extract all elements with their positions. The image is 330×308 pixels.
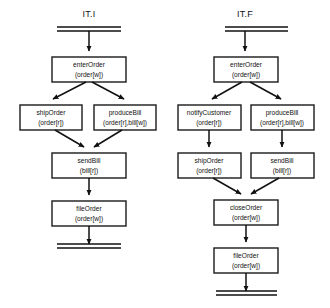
node-params: (order[w]) <box>232 262 260 270</box>
node-shipOrder-it-f: shipOrder (order[r]) <box>178 153 241 178</box>
diagram-it-i: IT.I enterOrder (order[w]) shipOrder <box>20 9 156 248</box>
end-node-it-f <box>216 291 277 295</box>
edge-enterOrder-to-shipOrder-it-i <box>53 82 86 99</box>
node-sendBill-it-f: sendBill (bill[r]) <box>251 153 314 178</box>
node-params: (order[r],bill[w]) <box>103 119 147 127</box>
edge-sendBill-to-closeOrder-it-f <box>251 178 279 194</box>
node-label: notifyCustomer <box>187 109 232 117</box>
node-label: closeOrder <box>230 204 263 211</box>
node-params: (order[w]) <box>232 214 260 222</box>
node-shipOrder-it-i: shipOrder (order[r]) <box>20 105 82 130</box>
node-params: (order[w]) <box>75 71 103 79</box>
end-node-it-i <box>57 244 121 248</box>
node-params: (bill[r]) <box>273 167 291 175</box>
node-produceBill-it-i: produceBill (order[r],bill[w]) <box>94 105 156 130</box>
node-label: shipOrder <box>37 109 67 117</box>
node-notifyCustomer-it-f: notifyCustomer (order[r]) <box>178 105 241 130</box>
node-params: (order[r],bill[w]) <box>260 119 304 127</box>
node-label: enterOrder <box>73 61 106 68</box>
edge-enterOrder-to-produceBill-it-i <box>92 82 124 99</box>
node-enterOrder-it-f: enterOrder (order[w]) <box>214 57 278 82</box>
edge-shipOrder-to-closeOrder-it-f <box>213 178 241 194</box>
node-label: fileOrder <box>76 205 102 212</box>
start-node-it-i <box>57 27 121 31</box>
node-params: (order[w]) <box>75 215 103 223</box>
node-label: sendBill <box>270 157 294 164</box>
node-params: (order[r]) <box>38 119 64 127</box>
node-closeOrder-it-f: closeOrder (order[w]) <box>214 200 278 225</box>
node-label: fileOrder <box>233 252 259 259</box>
node-label: shipOrder <box>195 157 225 165</box>
node-params: (order[r]) <box>196 119 222 127</box>
edge-shipOrder-to-sendBill-it-i <box>55 130 84 147</box>
diagram-title-it-i: IT.I <box>83 9 96 19</box>
node-label: sendBill <box>77 157 101 164</box>
edge-enterOrder-to-produceBill-it-f <box>250 82 281 99</box>
diagram-canvas: IT.I enterOrder (order[w]) shipOrder <box>0 0 330 308</box>
node-label: enterOrder <box>230 61 263 68</box>
activity-diagram-figure: IT.I enterOrder (order[w]) shipOrder <box>0 0 330 308</box>
edge-produceBill-to-sendBill-it-i <box>94 130 122 147</box>
node-sendBill-it-i: sendBill (bill[r]) <box>52 153 126 178</box>
node-params: (order[r]) <box>196 167 222 175</box>
node-enterOrder-it-i: enterOrder (order[w]) <box>52 57 126 82</box>
node-params: (bill[r]) <box>80 167 98 175</box>
node-produceBill-it-f: produceBill (order[r],bill[w]) <box>251 105 314 130</box>
edge-enterOrder-to-notifyCustomer-it-f <box>212 82 242 99</box>
node-fileOrder-it-i: fileOrder (order[w]) <box>52 201 126 226</box>
start-node-it-f <box>225 27 288 31</box>
node-fileOrder-it-f: fileOrder (order[w]) <box>214 248 278 273</box>
diagram-title-it-f: IT.F <box>237 9 253 19</box>
node-params: (order[w]) <box>232 71 260 79</box>
diagram-it-f: IT.F enterOrder (order[w]) notifyCust <box>178 9 314 295</box>
node-label: produceBill <box>266 109 299 117</box>
node-label: produceBill <box>109 109 142 117</box>
